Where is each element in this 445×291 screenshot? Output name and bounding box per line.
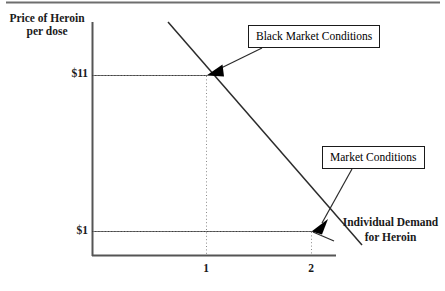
- y-axis-title-line1: Price of Heroin: [9, 12, 84, 24]
- series-label-line1: Individual Demand: [343, 216, 439, 228]
- y-axis-title: Price of Heroin per dose: [4, 12, 90, 38]
- x-tick-label-1: 1: [196, 262, 216, 274]
- y-tick-label-11: $11: [58, 67, 88, 79]
- annotation-market-conditions: Market Conditions: [322, 146, 425, 169]
- series-label-line2: for Heroin: [365, 231, 417, 243]
- arrowhead-black-market: [207, 65, 225, 77]
- annotation-black-market-conditions: Black Market Conditions: [248, 25, 380, 48]
- x-tick-label-2: 2: [301, 262, 321, 274]
- demand-curve-line: [168, 22, 362, 245]
- series-label-individual-demand: Individual Demand for Heroin: [336, 215, 445, 245]
- y-tick-label-1: $1: [58, 224, 88, 236]
- chart-canvas: Price of Heroin per dose $11 $1 1 2 Blac…: [0, 0, 445, 291]
- caption-leader-line: [313, 232, 334, 241]
- y-axis-title-line2: per dose: [27, 25, 68, 37]
